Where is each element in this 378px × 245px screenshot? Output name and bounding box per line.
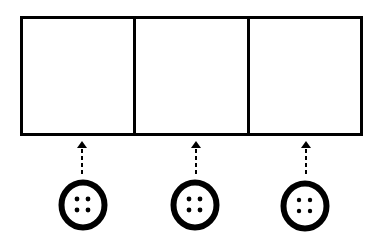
panel-3 <box>247 19 360 133</box>
panel-row <box>20 16 363 136</box>
panel-2 <box>133 19 246 133</box>
diagram-canvas <box>0 0 378 245</box>
button-four-holes-icon <box>280 180 330 232</box>
dashed-arrow-up-icon <box>300 140 312 178</box>
dashed-arrow-up-icon <box>190 140 202 178</box>
dashed-arrow-up-icon <box>76 140 88 178</box>
button-four-holes-icon <box>170 179 220 231</box>
panel-1 <box>23 19 133 133</box>
button-four-holes-icon <box>58 179 108 231</box>
